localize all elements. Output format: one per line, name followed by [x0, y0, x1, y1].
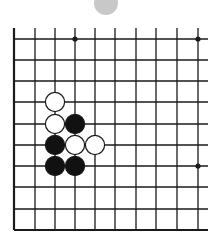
star-point: [195, 163, 200, 168]
white-stone: [85, 135, 104, 154]
star-point: [72, 36, 77, 41]
black-stone: [65, 114, 84, 133]
black-stone: [45, 135, 64, 154]
black-stone: [65, 156, 84, 175]
black-stone: [45, 156, 64, 175]
white-stone: [45, 114, 64, 133]
white-stone: [65, 135, 84, 154]
star-point: [195, 36, 200, 41]
go-board: [0, 0, 221, 245]
white-stone: [45, 92, 64, 111]
